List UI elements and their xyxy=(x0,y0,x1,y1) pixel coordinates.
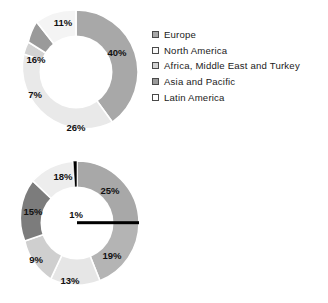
legend-item-asia-and-pacific[interactable]: Asia and Pacific xyxy=(152,74,300,90)
geographic-donut-svg: 40% 26% 7% 16% 11% xyxy=(12,6,140,138)
legend-swatch-icon xyxy=(152,47,159,54)
legend-swatch-icon xyxy=(152,78,159,85)
legend-label: Asia and Pacific xyxy=(164,76,235,87)
slice-value-asia-pacific: 16% xyxy=(26,54,46,65)
segment-donut-svg: 1% 25% 19% 13% 9% 15% 18% xyxy=(13,157,141,289)
legend-swatch-icon xyxy=(152,94,159,101)
slice-value-latin-america: 11% xyxy=(54,17,73,28)
slice-value-europe: 40% xyxy=(107,47,127,58)
slice-value-personal-care: 18% xyxy=(53,171,73,182)
geographic-donut-chart: 40% 26% 7% 16% 11% xyxy=(12,6,140,138)
legend-item-africa-middle-east-turkey[interactable]: Africa, Middle East and Turkey xyxy=(152,58,300,74)
donut-hole xyxy=(40,36,113,109)
legend-item-latin-america[interactable]: Latin America xyxy=(152,89,300,105)
slice-value-savoury: 25% xyxy=(100,185,120,196)
geographic-chart-block: 40% 26% 7% 16% 11% Europe North America … xyxy=(0,0,328,151)
legend-label: Latin America xyxy=(164,92,225,103)
legend-label: North America xyxy=(164,45,227,56)
slice-value-other-operations: 1% xyxy=(69,209,83,220)
legend-swatch-icon xyxy=(152,31,159,38)
slice-value-ice-cream: 9% xyxy=(29,254,43,265)
legend-label: Europe xyxy=(164,29,196,40)
segment-chart-block: 1% 25% 19% 13% 9% 15% 18% Savoury and dr… xyxy=(0,152,328,303)
slice-value-north-america: 26% xyxy=(66,122,86,133)
legend-item-north-america[interactable]: North America xyxy=(152,43,300,59)
legend-label: Africa, Middle East and Turkey xyxy=(164,60,300,71)
slice-value-africa: 7% xyxy=(28,89,42,100)
legend-item-europe[interactable]: Europe xyxy=(152,27,300,43)
slice-value-spreads: 19% xyxy=(102,250,122,261)
slice-value-health: 13% xyxy=(60,275,80,286)
slice-value-home-care: 15% xyxy=(23,206,43,217)
legend-swatch-icon xyxy=(152,62,159,69)
geographic-legend: Europe North America Africa, Middle East… xyxy=(152,27,300,105)
segment-donut-chart: 1% 25% 19% 13% 9% 15% 18% xyxy=(13,157,141,289)
